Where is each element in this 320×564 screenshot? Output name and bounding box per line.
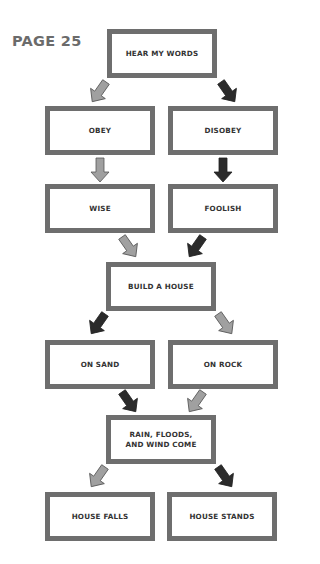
node-house-falls: HOUSE FALLS [45,492,155,541]
arrow-build-sand [84,309,113,339]
node-label: DISOBEY [205,126,242,136]
arrow-storm-stands [211,462,240,492]
node-wise: WISE [45,184,155,233]
arrow-hear-disobey [214,77,243,107]
node-foolish: FOOLISH [168,184,278,233]
node-label-line2: AND WIND COME [125,440,196,450]
arrow-foolish-build [182,232,211,262]
node-label: BUILD A HOUSE [128,282,194,292]
node-label: HOUSE STANDS [189,512,254,522]
arrow-sand-storm [115,387,144,417]
node-house-stands: HOUSE STANDS [167,492,277,541]
node-on-rock: ON ROCK [168,340,278,389]
node-label: OBEY [89,126,112,136]
node-build-a-house: BUILD A HOUSE [106,262,216,311]
node-label: ON SAND [81,360,120,370]
arrow-wise-build [115,232,144,262]
node-disobey: DISOBEY [168,106,278,155]
arrow-disobey-foolish [214,158,232,182]
node-label-line1: RAIN, FLOODS, [130,430,193,440]
arrow-obey-wise [91,158,109,182]
node-label: HEAR MY WORDS [126,49,199,59]
node-label: WISE [89,204,111,214]
node-obey: OBEY [45,106,155,155]
node-label: HOUSE FALLS [72,512,129,522]
arrow-storm-falls [84,462,113,492]
arrow-rock-storm [182,387,211,417]
node-label: FOOLISH [205,204,242,214]
node-rain-floods-wind: RAIN, FLOODS, AND WIND COME [106,415,216,464]
arrow-hear-obey [85,77,114,107]
node-on-sand: ON SAND [45,340,155,389]
node-hear-my-words: HEAR MY WORDS [107,29,217,78]
arrow-build-rock [211,309,240,339]
node-label: ON ROCK [204,360,243,370]
